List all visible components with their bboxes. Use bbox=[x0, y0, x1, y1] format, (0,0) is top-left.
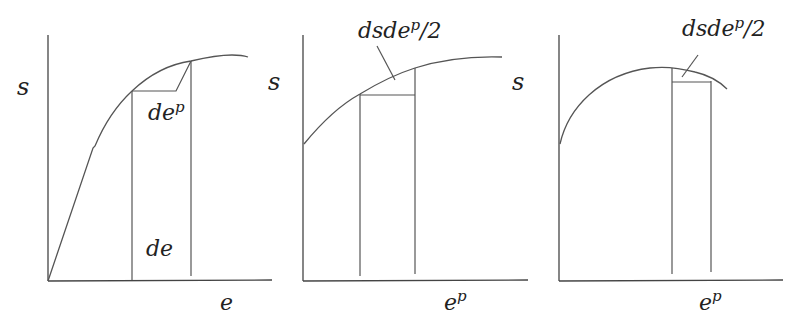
panel-1-x-axis bbox=[48, 280, 272, 281]
panel-2-area-leader-line bbox=[377, 46, 395, 80]
panel-3-y-axis-label: s bbox=[512, 68, 524, 96]
panel-2-area-label: dsdep/2 bbox=[358, 16, 442, 43]
panel-3-softening-curve bbox=[560, 67, 727, 144]
panel-1-plastic-increment-label: dep bbox=[148, 98, 185, 125]
panel-3-area-label: dsdep/2 bbox=[682, 14, 766, 41]
panel-1-total-increment-label: de bbox=[146, 236, 173, 261]
panel-2-x-axis bbox=[303, 280, 528, 281]
panel-2-stress-vs-plastic-strain-hardening: s dsdep/2 ep bbox=[268, 16, 528, 315]
panel-3-x-axis bbox=[559, 280, 783, 281]
panel-1-y-axis-label: s bbox=[17, 73, 29, 101]
panel-1-plastic-increment-triangle bbox=[132, 61, 191, 91]
panel-1-stress-vs-total-strain: s dep de e bbox=[17, 35, 272, 315]
panel-2-y-axis-label: s bbox=[268, 68, 280, 96]
panel-2-hardening-curve bbox=[304, 57, 502, 144]
stress-strain-figure: s dep de e s dsdep/2 ep s dsdep/2 bbox=[0, 0, 806, 326]
panel-3-stress-vs-plastic-strain-softening: s dsdep/2 ep bbox=[512, 14, 783, 315]
panel-3-area-leader-line bbox=[682, 55, 698, 77]
panel-2-x-axis-label: ep bbox=[444, 287, 467, 315]
panel-1-x-axis-label: e bbox=[220, 290, 233, 315]
panel-3-x-axis-label: ep bbox=[699, 287, 722, 315]
